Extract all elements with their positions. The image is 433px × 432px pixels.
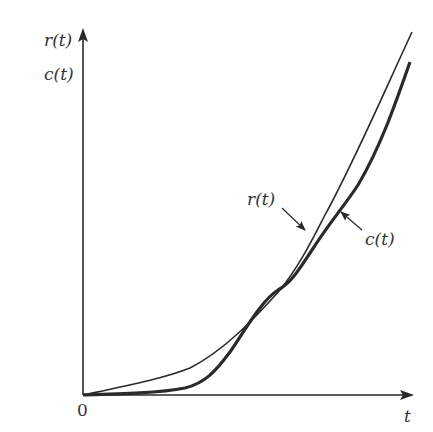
annotation-r-arrow [282,208,305,230]
annotation-r: r(t) [247,189,275,209]
annotation-c-arrow [341,212,362,230]
r-curve [83,32,412,395]
annotation-c: c(t) [365,229,395,249]
response-diagram: r(t) c(t) 0 t r(t) c(t) [0,0,433,432]
y-label-r: r(t) [44,30,72,50]
y-label-c: c(t) [44,64,74,84]
x-axis-label: t [404,406,411,426]
origin-label: 0 [77,400,88,420]
